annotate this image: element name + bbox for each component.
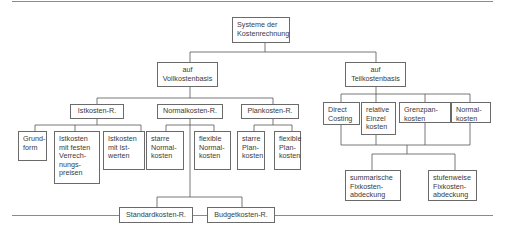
node-direct-costing: Direct Costing [323,102,360,125]
node-istkosten-r: Istkosten-R. [70,104,124,119]
node-budgetkosten-r: Budgetkosten-R. [207,207,275,223]
node-plankosten-r: Plankosten-R. [241,104,299,119]
node-stufenweise-fixkostenabdeckung: stufenweise Fixkosten- abdeckung [428,170,477,201]
node-istkosten-istwerte: Istkosten mit Ist- werten [103,131,145,170]
node-grenzplankosten: Grenzpan- kosten [399,102,451,123]
node-normalkosten-teil: Normal- kosten [451,102,491,123]
node-starre-normalkosten: starre Normal- kosten [146,131,184,170]
node-flexible-normalkosten: flexible Normal- kosten [194,131,231,170]
node-relative-einzelkosten: relative Einzel kosten [361,102,396,135]
node-starre-plankosten: starre Plan- kosten [237,131,265,170]
node-normalkosten-r: Normalkosten-R. [157,104,223,119]
node-vollkostenbasis: auf Vollkostenbasis [157,62,218,87]
node-grundform: Grund- form [18,131,47,161]
node-systeme-der-kostenrechnung: Systeme der Kostenrechnung [232,17,290,43]
node-teilkostenbasis: auf Teilkostenbasis [345,62,406,87]
node-standardkosten-r: Standardkosten-R. [119,207,193,223]
node-flexible-plankosten: flexible Plan- kosten [274,131,301,170]
node-summarische-fixkostenabdeckung: summarische Fixkosten- abdeckung [345,170,401,201]
node-istkosten-feste-verrechnungspreise: Istkosten mit festen Verrech- nungs- pre… [54,131,100,184]
